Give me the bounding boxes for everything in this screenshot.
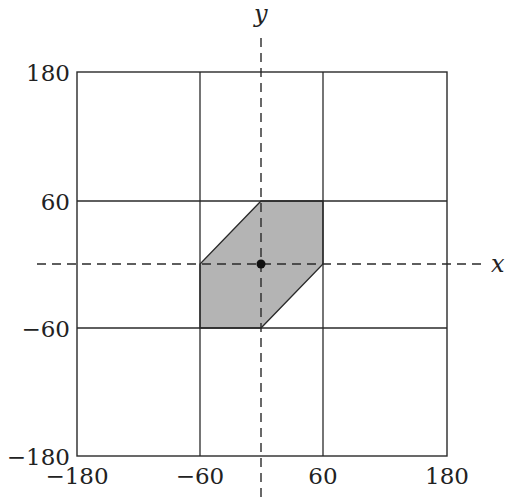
x-axis-label: x: [491, 250, 505, 278]
y-tick-60: 60: [41, 189, 70, 215]
y-tick-minus-60: −60: [21, 316, 70, 342]
origin-point: [257, 260, 266, 269]
y-axis-label: y: [253, 0, 268, 28]
y-tick-180: 180: [26, 60, 70, 86]
diagram-canvas: y x 180 60 −60 −180 −180 −60 60 180: [0, 0, 509, 498]
x-tick-180: 180: [425, 463, 469, 489]
x-tick-minus-180: −180: [45, 463, 108, 489]
x-tick-minus-60: −60: [176, 463, 225, 489]
x-tick-60: 60: [308, 463, 337, 489]
ramachandran-style-diagram: y x 180 60 −60 −180 −180 −60 60 180: [0, 0, 509, 498]
